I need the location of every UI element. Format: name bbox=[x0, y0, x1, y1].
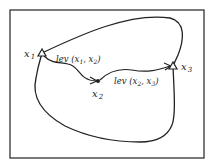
edge-label-lev-x1-x2: lev (x1, x2) bbox=[56, 54, 101, 65]
x2-dot-marker bbox=[96, 79, 100, 83]
x1-triangle-marker bbox=[38, 49, 46, 56]
x2-label: x2 bbox=[92, 88, 104, 101]
frame-border bbox=[10, 10, 204, 158]
x1-label: x1 bbox=[24, 48, 35, 61]
edge-label-lev-x2-x3: lev (x2, x3) bbox=[114, 76, 159, 87]
diagram-canvas: x1 x2 x3 lev (x1, x2) lev (x2, x3) bbox=[0, 0, 212, 164]
x3-label: x3 bbox=[181, 61, 193, 74]
outer-closed-curve bbox=[35, 17, 182, 142]
